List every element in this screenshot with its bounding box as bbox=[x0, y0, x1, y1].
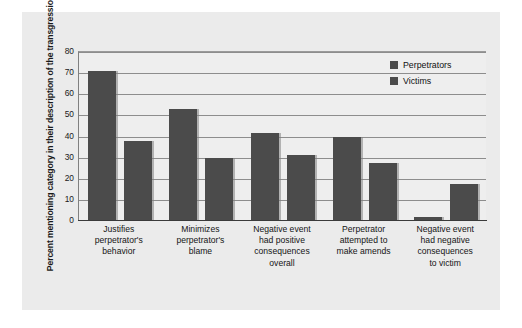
bar-4-perpetrators bbox=[333, 137, 361, 220]
y-tick-label-70: 70 bbox=[52, 67, 74, 77]
x-axis-label-3: Negative eventhad positiveconsequencesov… bbox=[241, 224, 323, 269]
x-axis-label-5: Negative eventhad negativeconsequencesto… bbox=[404, 224, 486, 269]
x-axis-label-line: Justifies bbox=[78, 224, 160, 235]
x-axis-label-line: consequences bbox=[241, 246, 323, 257]
x-axis-label-line: behavior bbox=[78, 246, 160, 257]
x-axis-label-line: consequences bbox=[404, 246, 486, 257]
legend-swatch-victims-icon bbox=[390, 77, 398, 85]
bar-2-victims bbox=[205, 158, 233, 220]
gridline-60 bbox=[79, 94, 486, 95]
legend-item-victims[interactable]: Victims bbox=[390, 74, 486, 88]
bar-3-victims bbox=[287, 155, 315, 220]
y-tick-label-10: 10 bbox=[52, 194, 74, 204]
x-axis-label-4: Perpetratorattempted tomake amends bbox=[323, 224, 405, 258]
x-axis-label-2: Minimizesperpetrator'sblame bbox=[160, 224, 242, 258]
bar-4-victims bbox=[369, 163, 397, 220]
x-axis-label-line: Minimizes bbox=[160, 224, 242, 235]
x-axis-label-line: perpetrator's bbox=[78, 235, 160, 246]
chart-legend: PerpetratorsVictims bbox=[390, 58, 486, 90]
x-axis-label-line: Perpetrator bbox=[323, 224, 405, 235]
gridline-50 bbox=[79, 115, 486, 116]
bar-1-victims bbox=[124, 141, 152, 220]
x-axis-category-labels: Justifiesperpetrator'sbehaviorMinimizesp… bbox=[78, 224, 486, 286]
x-axis-label-line: Negative event bbox=[241, 224, 323, 235]
x-axis-label-1: Justifiesperpetrator'sbehavior bbox=[78, 224, 160, 258]
y-tick-label-80: 80 bbox=[52, 46, 74, 56]
gridline-80 bbox=[79, 52, 486, 53]
bar-3-perpetrators bbox=[251, 133, 279, 220]
x-axis-label-line: to victim bbox=[404, 258, 486, 269]
y-tick-label-50: 50 bbox=[52, 109, 74, 119]
y-tick-label-30: 30 bbox=[52, 152, 74, 162]
y-tick-label-20: 20 bbox=[52, 173, 74, 183]
bar-5-victims bbox=[450, 184, 478, 220]
x-axis-label-line: overall bbox=[241, 258, 323, 269]
bar-1-perpetrators bbox=[88, 71, 116, 220]
legend-swatch-perpetrators-icon bbox=[390, 61, 398, 69]
y-tick-label-40: 40 bbox=[52, 131, 74, 141]
x-axis-label-line: perpetrator's bbox=[160, 235, 242, 246]
x-axis-label-line: had positive bbox=[241, 235, 323, 246]
y-axis-tick-labels: 01020304050607080 bbox=[50, 51, 74, 220]
legend-item-perpetrators[interactable]: Perpetrators bbox=[390, 58, 486, 72]
x-axis-label-line: blame bbox=[160, 246, 242, 257]
bar-chart-figure: Percent mentioning category in their des… bbox=[0, 0, 522, 328]
x-axis-label-line: Negative event bbox=[404, 224, 486, 235]
x-axis-label-line: attempted to bbox=[323, 235, 405, 246]
x-axis-label-line: make amends bbox=[323, 246, 405, 257]
y-tick-label-0: 0 bbox=[52, 215, 74, 225]
x-axis-line bbox=[78, 220, 487, 221]
legend-label: Perpetrators bbox=[403, 60, 451, 70]
gridline-40 bbox=[79, 137, 486, 138]
y-tick-label-60: 60 bbox=[52, 88, 74, 98]
bar-2-perpetrators bbox=[169, 109, 197, 220]
legend-label: Victims bbox=[403, 76, 431, 86]
x-axis-label-line: had negative bbox=[404, 235, 486, 246]
